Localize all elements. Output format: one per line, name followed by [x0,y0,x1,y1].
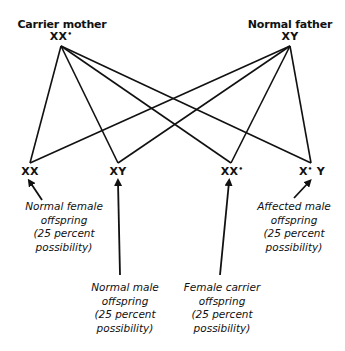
genotype-base: XX [21,165,39,178]
caption-line: Normal male [80,281,170,295]
caption-female-carrier: Female carrier offspring (25 percent pos… [172,281,272,335]
x-linked-inheritance-diagram: Carrier mother XX• Normal father XY XX X… [0,0,345,351]
arrow-icon-normal-male [118,182,120,275]
caption-affected-male: Affected male offspring (25 percent poss… [244,200,344,254]
line-father-to-xx-carrier [231,46,290,163]
father-genotype: XY [265,30,315,43]
caption-line: possibility) [14,241,114,255]
carrier-mark: • [238,165,243,173]
offspring-genotype-female-carrier: XX• [210,165,254,178]
line-mother-to-xx-carrier [61,46,231,163]
genotype-base: XX [221,165,239,178]
genotype-base: XY [109,165,126,178]
father-genotype-base: XY [281,30,298,43]
caption-line: Affected male [244,200,344,214]
caption-line: offspring [244,214,344,228]
genotype-tail: Y [313,165,325,178]
arrow-icon-female-carrier [220,182,229,275]
arrow-icon-normal-female [30,182,42,200]
caption-line: Female carrier [172,281,272,295]
genotype-base: X [299,165,308,178]
offspring-genotype-affected-male: X• Y [290,165,334,178]
caption-line: offspring [14,214,114,228]
caption-line: possibility) [244,241,344,255]
mother-lines [30,46,311,163]
carrier-mark: • [67,30,72,38]
mother-genotype-base: XX [50,30,68,43]
line-mother-to-affected-male [61,46,311,163]
line-father-to-xy [118,46,290,163]
caption-line: (25 percent [172,308,272,322]
arrow-icon-affected-male [294,182,309,198]
caption-normal-female: Normal female offspring (25 percent poss… [14,200,114,254]
father-lines [30,46,311,163]
caption-normal-male: Normal male offspring (25 percent possib… [80,281,170,335]
caption-line: offspring [172,295,272,309]
mother-genotype: XX• [36,30,86,43]
caption-line: Normal female [14,200,114,214]
caption-line: possibility) [80,322,170,336]
caption-line: (25 percent [244,227,344,241]
offspring-genotype-normal-male: XY [98,165,138,178]
caption-line: offspring [80,295,170,309]
caption-line: (25 percent [80,308,170,322]
caption-line: (25 percent [14,227,114,241]
caption-line: possibility) [172,322,272,336]
offspring-genotype-normal-female: XX [10,165,50,178]
line-mother-to-xx [30,46,61,163]
line-father-to-affected-male [290,46,311,163]
